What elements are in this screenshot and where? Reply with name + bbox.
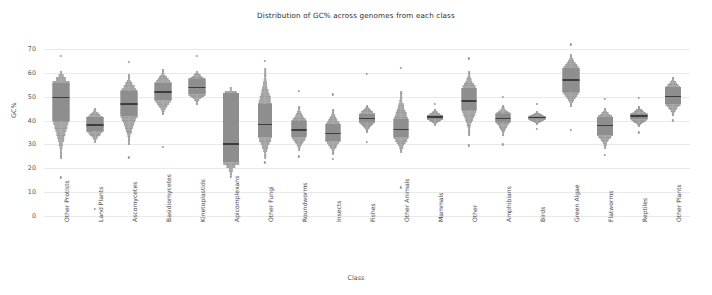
violin-band <box>264 155 266 159</box>
violin-band <box>196 103 198 105</box>
box-plot-group[interactable] <box>486 42 520 216</box>
violin-band <box>332 152 334 154</box>
box-plot-group[interactable] <box>656 42 690 216</box>
median-line <box>223 143 239 144</box>
median-line <box>121 103 138 104</box>
outlier-point <box>604 154 606 156</box>
median-line <box>359 118 375 119</box>
median-line <box>326 133 341 134</box>
box-plot-group[interactable] <box>214 42 248 216</box>
median-line <box>563 79 580 80</box>
outlier-point <box>298 155 300 157</box>
median-line <box>53 97 70 98</box>
outlier-point <box>570 43 572 45</box>
median-line <box>292 129 307 130</box>
outlier-point <box>264 161 266 163</box>
box-plot-group[interactable] <box>418 42 452 216</box>
violin-band <box>502 134 504 136</box>
outlier-point <box>502 96 504 98</box>
box-plot-group[interactable] <box>282 42 316 216</box>
box-plot-group[interactable] <box>588 42 622 216</box>
outlier-point <box>128 156 130 158</box>
median-line <box>496 118 511 119</box>
x-tick-label: Other Plants <box>675 184 682 222</box>
outlier-point <box>60 176 62 178</box>
outlier-point <box>332 158 334 160</box>
outlier-point <box>264 60 266 62</box>
x-tick-label: Other Protists <box>63 180 70 222</box>
x-axis-label: Class <box>0 274 712 282</box>
violin-band <box>60 155 62 159</box>
violin-band <box>536 124 538 125</box>
median-line <box>87 124 104 125</box>
box-plot-group[interactable] <box>180 42 214 216</box>
outlier-point <box>536 103 538 105</box>
box-plot-group[interactable] <box>350 42 384 216</box>
median-line <box>597 125 613 126</box>
box-plot-group[interactable] <box>622 42 656 216</box>
outlier-point <box>94 208 96 210</box>
median-line <box>258 124 272 125</box>
box-plot-group[interactable] <box>452 42 486 216</box>
median-line <box>529 117 546 118</box>
violin-band <box>672 114 674 116</box>
box-plot-group[interactable] <box>316 42 350 216</box>
violin-band <box>604 147 606 149</box>
outlier-point <box>162 146 164 148</box>
chart-figure: Distribution of GC% across genomes from … <box>0 0 712 295</box>
x-tick-label: Kinetoplastids <box>199 179 206 222</box>
outlier-point <box>128 61 130 63</box>
outlier-point <box>434 103 436 105</box>
violin-band <box>128 142 130 145</box>
violin-band <box>94 141 96 143</box>
box-plot-group[interactable] <box>554 42 588 216</box>
outlier-point <box>536 128 538 130</box>
median-line <box>462 100 477 101</box>
violin-band <box>434 125 436 126</box>
x-tick-label: Other <box>471 205 478 222</box>
x-tick-label: Reptiles <box>641 198 648 222</box>
outlier-point <box>196 55 198 57</box>
outlier-point <box>570 129 572 131</box>
x-tick-label: Ascomycetes <box>131 182 138 222</box>
violin-band <box>570 104 572 107</box>
box-plot-group[interactable] <box>146 42 180 216</box>
outlier-point <box>60 55 62 57</box>
outlier-point <box>638 131 640 133</box>
box-plot-group[interactable] <box>112 42 146 216</box>
y-tick-label: 40 <box>2 117 36 125</box>
box-plot-group[interactable] <box>384 42 418 216</box>
median-line <box>631 115 648 116</box>
box-plot-group[interactable] <box>248 42 282 216</box>
box-plot-group[interactable] <box>44 42 78 216</box>
outlier-point <box>502 143 504 145</box>
y-tick-label: 70 <box>2 45 36 53</box>
outlier-point <box>366 73 368 75</box>
box-plot-group[interactable] <box>520 42 554 216</box>
plot-area <box>44 42 690 216</box>
outlier-point <box>604 98 606 100</box>
iqr-box <box>462 88 477 109</box>
y-tick-label: 10 <box>2 188 36 196</box>
median-line <box>155 91 172 92</box>
outlier-point <box>468 57 470 59</box>
y-tick-label: 20 <box>2 164 36 172</box>
outlier-point <box>298 90 300 92</box>
outlier-point <box>230 175 232 177</box>
violin-band <box>468 132 470 135</box>
x-tick-label: Fishes <box>369 203 376 222</box>
gridline-y-0 <box>44 216 690 217</box>
x-tick-label: Mammals <box>437 193 444 222</box>
median-line <box>394 129 409 130</box>
x-tick-label: Other Animals <box>403 178 410 222</box>
outlier-point <box>400 186 402 188</box>
iqr-box <box>258 104 272 137</box>
violin-band <box>162 113 164 115</box>
outlier-point <box>366 141 368 143</box>
box-plot-group[interactable] <box>78 42 112 216</box>
x-tick-label: Insects <box>335 201 342 223</box>
violin-band <box>400 150 402 153</box>
x-tick-label: Flatworms <box>607 190 614 222</box>
violin-band <box>638 126 640 127</box>
x-tick-label: Amphibians <box>505 186 512 222</box>
